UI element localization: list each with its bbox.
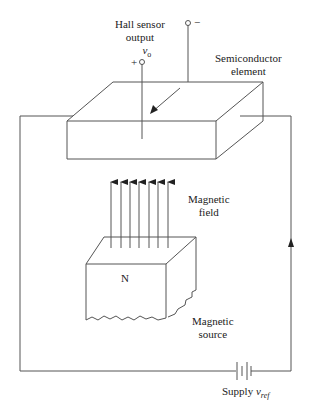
north-pole-label: N [121,272,129,285]
semiconductor-element [67,82,263,159]
plus-sign: + [131,56,137,69]
terminal-minus [186,21,191,26]
label-line: element [215,65,282,78]
subscript: o [147,50,151,59]
circuit-wire-right [240,116,291,371]
magnet-top [86,237,196,264]
label-line: field [188,206,230,219]
supply-label: Supply vref [222,385,269,402]
label-line: Magnetic [188,193,230,206]
minus-sign: − [194,16,200,29]
battery-symbol [237,362,251,380]
output-voltage-symbol: vo [115,44,165,61]
subscript: ref [261,391,270,400]
magnetic-source-label: Magnetic source [192,315,234,341]
label-line: Magnetic [192,315,234,328]
magnetic-field-label: Magnetic field [188,193,230,219]
supply-current-arrowhead [288,238,294,247]
hall-output-label: Hall sensor output vo [115,18,165,61]
label-line: output [115,31,165,44]
current-arrowhead [150,105,158,114]
magnetic-field-lines [111,182,168,248]
label-line: Semiconductor [215,52,282,65]
label-line: Hall sensor [115,18,165,31]
label-line: source [192,328,234,341]
semiconductor-label: Semiconductor element [215,52,282,78]
supply-text: Supply [222,385,253,397]
hall-sensor-diagram: Hall sensor output vo − + Semiconductor … [0,0,314,414]
